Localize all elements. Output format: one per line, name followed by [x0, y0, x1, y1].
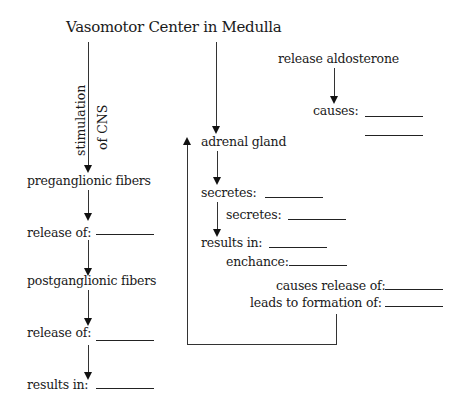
node-enchance: enchance:: [226, 255, 289, 269]
node-results-in-left: results in:: [27, 378, 88, 392]
node-causes: causes:: [313, 104, 359, 118]
node-secretes-1: secretes:: [201, 186, 256, 200]
blank-leads-to-formation-of[interactable]: [385, 306, 443, 307]
edge-label-stimulation: stimulation: [74, 85, 88, 156]
edge-label-of-cns: of CNS: [96, 105, 110, 150]
feedback-line-bottom: [187, 344, 337, 345]
arrowhead-down-icon: [212, 126, 220, 134]
arrowhead-down-icon: [84, 213, 92, 221]
node-secretes-2: secretes:: [226, 208, 281, 222]
blank-secretes-2[interactable]: [288, 219, 346, 220]
node-leads-to-formation-of: leads to formation of:: [250, 296, 382, 310]
arrow-postganglionic-to-release: [88, 290, 89, 320]
arrowhead-up-icon: [183, 137, 191, 145]
arrow-release-to-results: [88, 345, 89, 373]
arrow-medulla-to-adrenal: [216, 42, 217, 128]
arrowhead-down-icon: [84, 165, 92, 173]
blank-causes-release-of[interactable]: [385, 289, 443, 290]
blank-results-in-left[interactable]: [96, 388, 154, 389]
node-causes-release-of: causes release of:: [276, 279, 385, 293]
blank-release-of-1[interactable]: [96, 234, 154, 235]
blank-enchance[interactable]: [289, 265, 347, 266]
arrow-release-to-postganglionic: [88, 240, 89, 270]
node-release-of-1: release of:: [27, 226, 91, 240]
blank-results-in-middle[interactable]: [269, 247, 327, 248]
blank-release-of-2[interactable]: [96, 340, 154, 341]
node-adrenal-gland: adrenal gland: [201, 135, 286, 149]
title-vasomotor-center: Vasomotor Center in Medulla: [66, 18, 281, 36]
feedback-line-down: [336, 314, 337, 344]
blank-secretes-1[interactable]: [265, 197, 323, 198]
blank-causes-2[interactable]: [365, 135, 423, 136]
arrow-aldosterone-to-causes: [334, 68, 335, 98]
feedback-line-up: [187, 144, 188, 345]
arrow-preganglionic-to-release: [88, 190, 89, 215]
arrow-adrenal-to-secretes: [217, 151, 218, 178]
arrowhead-down-icon: [213, 177, 221, 185]
node-results-in-middle: results in:: [201, 236, 262, 250]
node-postganglionic-fibers: postganglionic fibers: [27, 274, 156, 288]
node-preganglionic-fibers: preganglionic fibers: [27, 174, 151, 188]
node-release-aldosterone: release aldosterone: [278, 52, 399, 66]
blank-causes-1[interactable]: [365, 116, 423, 117]
arrow-medulla-to-preganglionic: [88, 42, 89, 166]
arrow-secretes-to-results: [217, 202, 218, 231]
node-release-of-2: release of:: [27, 326, 91, 340]
